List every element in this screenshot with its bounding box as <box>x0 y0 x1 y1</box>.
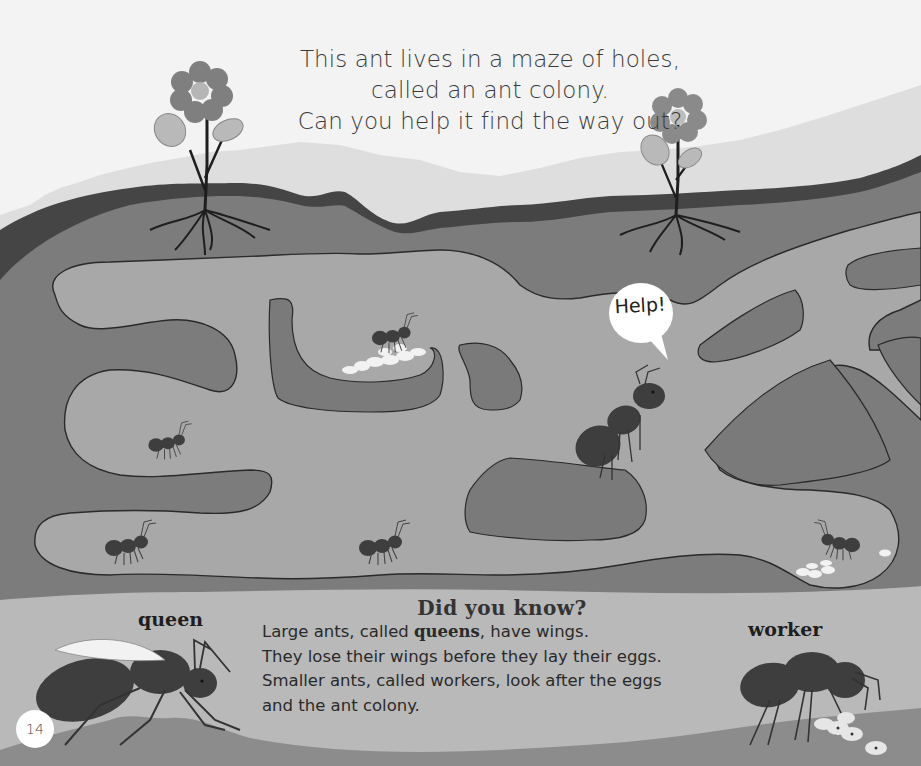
did-you-know-box: Did you know? Large ants, called queens,… <box>262 596 742 718</box>
intro-text: This ant lives in a maze of holes, calle… <box>250 44 730 137</box>
fact-text: Large ants, called <box>262 622 414 641</box>
did-you-know-title: Did you know? <box>322 596 682 620</box>
fact-line-3: Smaller ants, called workers, look after… <box>262 669 742 694</box>
worker-label: worker <box>748 618 822 640</box>
speech-bubble-text: Help! <box>613 293 666 318</box>
intro-line: This ant lives in a maze of holes, <box>250 44 730 75</box>
fact-line-4: and the ant colony. <box>262 694 742 719</box>
fact-line-1: Large ants, called queens, have wings. <box>262 620 742 645</box>
intro-line: Can you help it find the way out? <box>250 106 730 137</box>
fact-bold-term: queens <box>414 622 480 641</box>
queen-label: queen <box>138 608 203 630</box>
page-number: 14 <box>16 710 54 748</box>
intro-line: called an ant colony. <box>250 75 730 106</box>
fact-text: , have wings. <box>480 622 589 641</box>
fact-line-2: They lose their wings before they lay th… <box>262 645 742 670</box>
